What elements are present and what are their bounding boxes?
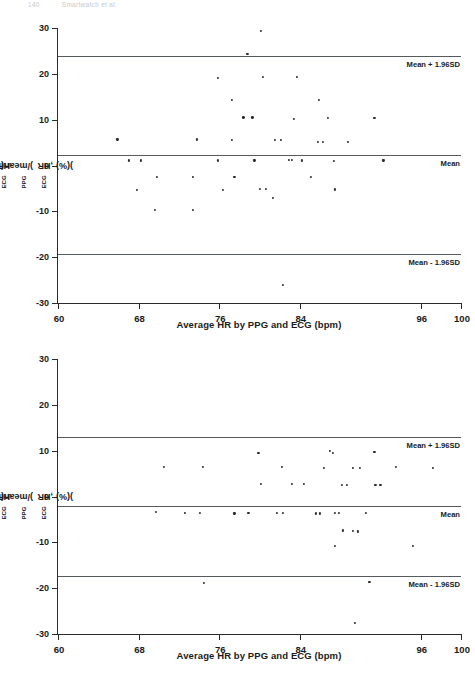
data-point — [203, 582, 205, 584]
data-point — [303, 483, 305, 485]
bland-altman-chart-2: (HRPPG-HRECG)/mean(HRPPG,HRECG)(%) 30201… — [0, 345, 475, 675]
data-point — [196, 138, 198, 140]
data-point — [412, 544, 414, 546]
data-point — [280, 139, 282, 141]
data-point — [382, 159, 384, 161]
data-point — [217, 76, 219, 78]
data-point — [202, 466, 204, 468]
data-point — [373, 450, 375, 452]
reference-line-lower-limit: Mean - 1.96SD — [58, 254, 461, 255]
data-point — [365, 512, 367, 514]
data-point — [259, 30, 261, 32]
reference-line-label: Mean - 1.96SD — [409, 580, 461, 589]
x-tick-0-1: 68 — [139, 303, 140, 309]
data-point — [259, 483, 261, 485]
data-point — [274, 139, 276, 141]
x-tick-1-4: 96 — [421, 634, 422, 640]
x-tick-1-5: 100 — [461, 634, 462, 640]
data-point — [333, 160, 335, 162]
reference-line-upper-limit: Mean + 1.96SD — [58, 56, 461, 57]
x-tick-1-3: 84 — [300, 634, 301, 640]
reference-line-label: Mean — [441, 510, 460, 519]
data-point — [334, 188, 336, 190]
data-point — [293, 118, 295, 120]
data-point — [301, 159, 303, 161]
y-tick-0-3: 0 — [52, 166, 58, 167]
y-tick-label: -20 — [36, 583, 49, 593]
data-point — [310, 175, 312, 177]
y-tick-1-3: 0 — [52, 497, 58, 498]
data-point — [373, 117, 375, 119]
data-point — [368, 581, 370, 583]
data-point — [327, 117, 329, 119]
y-tick-1-1: 20 — [52, 405, 58, 406]
y-tick-label: -10 — [36, 206, 49, 216]
y-tick-label: 30 — [39, 354, 49, 364]
data-point — [291, 159, 293, 161]
data-point — [323, 467, 325, 469]
plot-area-1: 3020100-10-20-306068768496100Mean + 1.96… — [57, 28, 461, 304]
y-axis-title-2: (HRPPG-HRECG)/mean(HRPPG,HRECG)(%) — [2, 359, 18, 635]
bland-altman-chart-1: (HRPPG-HRECG)/mean(HRPPG,HRECG)(%) 30201… — [0, 14, 475, 344]
reference-line-lower-limit: Mean - 1.96SD — [58, 576, 461, 577]
data-point — [346, 484, 348, 486]
data-point — [332, 451, 334, 453]
x-tick-1-0: 60 — [58, 634, 59, 640]
data-point — [264, 188, 266, 190]
data-point — [296, 76, 298, 78]
data-point — [257, 451, 259, 453]
data-point — [155, 511, 157, 513]
x-tick-1-2: 76 — [219, 634, 220, 640]
data-point — [217, 159, 219, 161]
y-tick-label: -20 — [36, 252, 49, 262]
reference-line-mean: Mean — [58, 155, 461, 156]
y-tick-label: -30 — [36, 629, 49, 639]
y-tick-label: 20 — [39, 69, 49, 79]
plot-area-2: 3020100-10-20-306068768496100Mean + 1.96… — [57, 359, 461, 635]
y-axis-title-1: (HRPPG-HRECG)/mean(HRPPG,HRECG)(%) — [2, 28, 18, 304]
data-point — [338, 512, 340, 514]
y-tick-label: 30 — [39, 23, 49, 33]
data-point — [233, 512, 235, 514]
data-point — [163, 466, 165, 468]
data-point — [282, 284, 284, 286]
y-tick-label: 10 — [39, 115, 49, 125]
x-tick-0-2: 76 — [219, 303, 220, 309]
data-point — [379, 483, 381, 485]
data-point — [322, 141, 324, 143]
x-axis-title-2: Average HR by PPG and ECG (bpm) — [57, 650, 461, 661]
data-point — [192, 176, 194, 178]
x-tick-0-5: 100 — [461, 303, 462, 309]
data-point — [261, 76, 263, 78]
page-number: 140 — [28, 1, 40, 8]
y-tick-0-2: 10 — [52, 120, 58, 121]
y-tick-1-5: -20 — [52, 588, 58, 589]
data-point — [329, 450, 331, 452]
data-point — [359, 467, 361, 469]
data-point — [156, 176, 158, 178]
y-tick-label: 0 — [44, 161, 49, 171]
data-point — [253, 159, 255, 161]
reference-line-mean: Mean — [58, 506, 461, 507]
reference-line-label: Mean + 1.96SD — [407, 60, 460, 69]
data-point — [432, 467, 434, 469]
data-point — [258, 188, 260, 190]
reference-line-upper-limit: Mean + 1.96SD — [58, 437, 461, 438]
data-point — [291, 483, 293, 485]
data-point — [242, 116, 244, 118]
data-point — [246, 53, 248, 55]
data-point — [352, 530, 354, 532]
y-tick-label: 10 — [39, 446, 49, 456]
y-tick-label: 20 — [39, 400, 49, 410]
data-point — [184, 512, 186, 514]
data-point — [231, 98, 233, 100]
y-tick-label: -30 — [36, 298, 49, 308]
page-header: 140Smartwatch et al. — [28, 1, 117, 8]
y-tick-0-0: 30 — [52, 28, 58, 29]
data-point — [127, 159, 129, 161]
running-head: Smartwatch et al. — [62, 1, 117, 8]
data-point — [276, 511, 278, 513]
data-point — [341, 483, 343, 485]
data-point — [342, 529, 344, 531]
y-tick-0-1: 20 — [52, 74, 58, 75]
